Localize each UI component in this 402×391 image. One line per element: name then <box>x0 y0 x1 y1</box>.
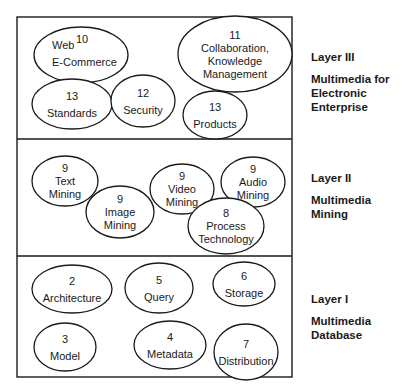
topic-label-line: Mining <box>237 189 269 201</box>
topic-number: 6 <box>241 270 247 282</box>
topic-security: 12Security <box>111 75 175 127</box>
topic-number: 10 <box>76 33 88 45</box>
topic-ellipse <box>134 321 206 369</box>
topic-query: 5Query <box>125 263 193 313</box>
topic-label-line: Mining <box>166 196 198 208</box>
topic-label-line: Text <box>55 175 75 187</box>
layer-name: Layer I <box>311 292 371 306</box>
topic-label-line: Query <box>144 291 174 303</box>
topic-number: 13 <box>209 101 221 113</box>
topic-label-line: Standards <box>47 107 98 119</box>
topic-number: 13 <box>66 90 78 102</box>
topic-architecture: 2Architecture <box>32 265 112 313</box>
topic-label-line: Image <box>105 206 136 218</box>
topic-ellipses: 10WebE-Commerce11Collaboration,Knowledge… <box>32 16 292 380</box>
topic-text-mining: 9TextMining <box>32 156 98 206</box>
topic-label-line: Management <box>203 68 267 80</box>
topic-label-line: Model <box>50 350 80 362</box>
topic-label-line: Security <box>123 104 163 116</box>
topic-number: 9 <box>62 162 68 174</box>
topic-number: 7 <box>243 338 249 350</box>
layer-description: Multimedia Mining <box>311 193 371 221</box>
topic-number: 9 <box>179 170 185 182</box>
topic-label-line: Storage <box>225 287 264 299</box>
topic-label-line: Process <box>206 220 246 232</box>
topic-label-line: Metadata <box>147 348 194 360</box>
layer-label-2: Layer II Multimedia Mining <box>311 171 371 221</box>
topic-number: 12 <box>137 87 149 99</box>
topic-ellipse <box>32 265 112 313</box>
topic-number: 11 <box>229 29 240 41</box>
topic-metadata: 4Metadata <box>134 321 206 369</box>
layer-label-1: Layer I Multimedia Database <box>311 292 371 342</box>
topic-label-line: Knowledge <box>208 55 262 67</box>
topic-label-line: Technology <box>198 233 254 245</box>
topic-ellipse <box>125 263 193 313</box>
topic-number: 5 <box>156 274 162 286</box>
topic-number: 2 <box>69 275 75 287</box>
topic-collaboration: 11Collaboration,KnowledgeManagement <box>178 16 292 92</box>
topic-number: 9 <box>117 193 123 205</box>
topic-process-technology: 8ProcessTechnology <box>188 198 264 254</box>
topic-model: 3Model <box>34 323 96 371</box>
topic-label-line: Products <box>193 118 237 130</box>
topic-label-line: Mining <box>49 188 81 200</box>
topic-ellipse <box>111 75 175 127</box>
layer-label-3: Layer III Multimedia for Electronic Ente… <box>311 50 390 114</box>
layer-name: Layer II <box>311 171 371 185</box>
topic-label-line: Video <box>168 183 196 195</box>
topic-label-line: Mining <box>104 219 136 231</box>
topic-image-mining: 9ImageMining <box>86 186 154 238</box>
topic-label-line: Collaboration, <box>201 42 269 54</box>
topic-label-line: E-Commerce <box>52 56 117 68</box>
topic-web-ecommerce: 10WebE-Commerce <box>34 27 128 83</box>
topic-number: 3 <box>62 333 68 345</box>
topic-label-line: Architecture <box>43 292 102 304</box>
topic-storage: 6Storage <box>213 262 275 306</box>
layer-description: Multimedia Database <box>311 314 371 342</box>
topic-ellipse <box>214 324 278 380</box>
topic-ellipse <box>183 91 247 139</box>
topic-ellipse <box>32 79 112 129</box>
topic-number: 9 <box>250 163 256 175</box>
layer-name: Layer III <box>311 50 390 64</box>
topic-number: 4 <box>167 331 173 343</box>
layer-description: Multimedia for Electronic Enterprise <box>311 72 390 114</box>
topic-ellipse <box>34 323 96 371</box>
topic-label-line: Audio <box>239 176 267 188</box>
topic-products: 13Products <box>183 91 247 139</box>
topic-distribution: 7Distribution <box>214 324 278 380</box>
topic-label-line: Web <box>52 39 74 51</box>
topic-standards: 13Standards <box>32 79 112 129</box>
topic-label-line: Distribution <box>218 355 273 367</box>
topic-number: 8 <box>223 207 229 219</box>
